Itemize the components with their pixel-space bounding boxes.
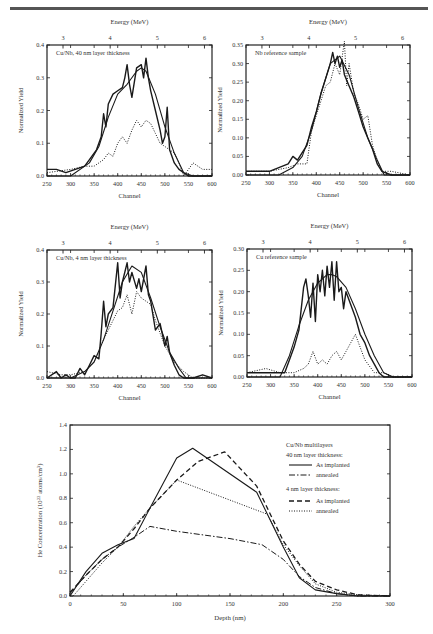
x-axis-label: Depth (nm): [214, 614, 246, 622]
series-line: [47, 266, 212, 378]
y-tick-label: 0.4: [36, 246, 44, 253]
x-tick-label: 400: [312, 179, 321, 186]
top-tick-label: 4: [307, 34, 310, 41]
x-tick-label: 250: [42, 180, 51, 187]
top-tick-label: 5: [156, 34, 159, 41]
x-tick-label: 250: [332, 600, 342, 607]
x-tick-label: 450: [137, 180, 146, 187]
y-tick-label: 0.1: [36, 342, 44, 349]
legend-entry: annealed: [316, 507, 339, 514]
y-axis-label: He Concentration (1022 atoms/cm3): [36, 464, 45, 558]
panel-label: Cu reference sample: [256, 253, 307, 260]
series-line: [47, 292, 212, 378]
x-tick-label: 600: [207, 382, 216, 389]
top-tick-label: 4: [109, 239, 112, 246]
x-axis-label: Channel: [319, 393, 341, 400]
top-tick-label: 6: [203, 34, 206, 41]
legend-entry: annealed: [316, 471, 339, 478]
y-tick-label: 0.15: [232, 115, 243, 122]
top-tick-label: 5: [156, 239, 159, 246]
legend-subtitle: 4 nm layer thickness:: [286, 485, 340, 492]
series-line: [246, 41, 410, 175]
series-line: [247, 334, 412, 377]
top-tick-label: 6: [401, 34, 404, 41]
y-tick-label: 1.4: [59, 421, 68, 428]
top-tick-label: 6: [403, 238, 406, 245]
x-tick-label: 400: [313, 381, 322, 388]
x-tick-label: 550: [184, 180, 193, 187]
top-tick-label: 6: [203, 239, 206, 246]
y-tick-label: 0.20: [233, 288, 244, 295]
y-tick-label: 0.20: [232, 97, 243, 104]
x-tick-label: 550: [384, 381, 393, 388]
top-tick-label: 3: [260, 34, 263, 41]
legend: Cu/Nb multilayers40 nm layer thickness:A…: [286, 441, 351, 514]
chart-cu-nb-40nm: 2503003504004505005506000.00.10.20.30.4C…: [17, 18, 217, 199]
x-tick-label: 300: [66, 382, 75, 389]
x-tick-label: 550: [382, 179, 391, 186]
x-tick-label: 400: [113, 382, 122, 389]
x-tick-label: 200: [279, 600, 289, 607]
y-tick-label: 0.30: [232, 60, 243, 67]
legend-title: 40 nm layer thickness:: [286, 451, 343, 458]
x-tick-label: 400: [113, 180, 122, 187]
series-line: [246, 56, 410, 175]
y-tick-label: 0.00: [233, 373, 244, 380]
y-tick-label: 0.35: [232, 41, 243, 48]
y-tick-label: 1.0: [59, 470, 67, 477]
y-tick-label: 0.8: [59, 494, 67, 501]
x-tick-label: 350: [90, 382, 99, 389]
plot-frame: [246, 45, 410, 175]
x-tick-label: 300: [266, 381, 275, 388]
y-tick-label: 1.2: [59, 445, 67, 452]
y-tick-label: 0.3: [36, 278, 44, 285]
y-tick-label: 0.2: [59, 568, 67, 575]
x-tick-label: 100: [172, 600, 182, 607]
series-line: [47, 58, 212, 176]
top-axis-label: Energy (MeV): [111, 223, 149, 231]
x-tick-label: 350: [90, 180, 99, 187]
y-axis-label: Normalized Yield: [17, 87, 24, 133]
top-axis-label: Energy (MeV): [311, 222, 349, 230]
y-tick-label: 0.05: [232, 152, 243, 159]
y-axis-label: Normalized Yield: [216, 87, 223, 133]
chart-he-depth-profile: 0501001502002503000.00.20.40.60.81.01.21…: [36, 421, 395, 622]
series-line: [70, 448, 390, 596]
series-line: [247, 275, 412, 377]
panel-label: Cu/Nb, 40 nm layer thickness: [56, 49, 130, 56]
x-tick-label: 450: [137, 382, 146, 389]
x-tick-label: 300: [385, 600, 395, 607]
y-tick-label: 0.05: [233, 352, 244, 359]
y-tick-label: 0.15: [233, 309, 244, 316]
y-tick-label: 0.4: [36, 41, 44, 48]
x-tick-label: 250: [241, 179, 250, 186]
x-tick-label: 150: [225, 600, 235, 607]
top-tick-label: 5: [356, 238, 359, 245]
x-tick-label: 500: [360, 381, 369, 388]
x-tick-label: 500: [160, 382, 169, 389]
chart-cu-reference: 2503003504004505005506000.000.050.100.15…: [217, 222, 417, 400]
series-line: [47, 120, 212, 176]
top-tick-label: 4: [109, 34, 112, 41]
y-tick-label: 0.25: [233, 266, 244, 273]
y-axis-label: Normalized Yield: [217, 290, 224, 336]
x-tick-label: 550: [184, 382, 193, 389]
panel-label: Nb reference sample: [255, 49, 306, 56]
x-tick-label: 250: [242, 381, 251, 388]
y-tick-label: 0.0: [59, 592, 67, 599]
y-tick-label: 0.2: [36, 107, 44, 114]
plot-frame: [247, 249, 412, 377]
y-axis-label: Normalized Yield: [17, 291, 24, 337]
y-tick-label: 0.25: [232, 78, 243, 85]
series-line: [70, 526, 390, 596]
y-tick-label: 0.6: [59, 519, 67, 526]
x-axis-label: Channel: [119, 192, 141, 199]
series-line: [47, 263, 212, 378]
figure: 2503003504004505005506000.00.10.20.30.4C…: [0, 0, 433, 634]
y-tick-label: 0.00: [232, 171, 243, 178]
x-tick-label: 500: [359, 179, 368, 186]
chart-cu-nb-4nm: 2503003504004505005506000.00.10.20.30.4C…: [17, 223, 217, 401]
x-tick-label: 450: [335, 179, 344, 186]
top-axis-label: Energy (MeV): [111, 18, 149, 26]
y-tick-label: 0.1: [36, 139, 44, 146]
